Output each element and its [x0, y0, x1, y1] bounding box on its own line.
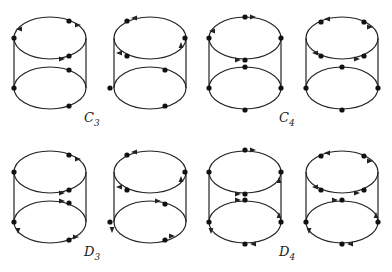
vertex-dot — [242, 191, 247, 196]
vertex-dot — [66, 67, 71, 72]
vertex-dot — [242, 197, 247, 202]
cylinder — [206, 147, 283, 246]
cylinder — [107, 150, 187, 243]
vertex-dot — [124, 53, 129, 58]
vertex-dot — [242, 241, 247, 246]
vertex-dot — [242, 57, 247, 62]
vertex-dot — [278, 35, 283, 40]
bottom-ellipse — [14, 67, 86, 109]
vertex-dot — [361, 53, 366, 58]
cylinder — [11, 151, 86, 243]
vertex-dot — [318, 19, 323, 24]
vertex-dot — [11, 169, 16, 174]
top-ellipse — [209, 17, 281, 59]
vertex-dot — [303, 85, 308, 90]
label-c4: C4 — [279, 110, 295, 128]
vertex-dot — [182, 35, 187, 40]
top-ellipse — [114, 151, 186, 193]
vertex-dot — [361, 19, 366, 24]
vertex-dot — [242, 147, 247, 152]
vertex-dot — [66, 53, 71, 58]
vertex-dot — [162, 237, 167, 242]
vertex-dot — [206, 85, 211, 90]
symmetry-diagram — [0, 0, 392, 272]
vertex-dot — [66, 237, 71, 242]
vertex-dot — [124, 152, 129, 157]
vertex-dot — [339, 241, 344, 246]
vertex-dot — [11, 35, 16, 40]
label-d3: D3 — [84, 244, 100, 262]
vertex-dot — [361, 187, 366, 192]
vertex-dot — [107, 219, 112, 224]
vertex-dot — [242, 14, 247, 19]
vertex-dot — [318, 153, 323, 158]
vertex-dot — [66, 187, 71, 192]
vertex-dot — [66, 200, 71, 205]
vertex-dot — [278, 219, 283, 224]
arrow-icon — [116, 185, 122, 190]
arrow-icon — [250, 15, 256, 20]
bottom-ellipse — [209, 67, 281, 109]
vertex-dot — [339, 107, 344, 112]
vertex-dot — [375, 85, 380, 90]
cylinder — [303, 17, 380, 113]
vertex-dot — [339, 64, 344, 69]
cylinder — [107, 16, 187, 109]
arrow-icon — [110, 227, 115, 233]
cylinder — [303, 151, 380, 247]
arrow-icon — [179, 42, 184, 48]
label-d4: D4 — [279, 244, 295, 262]
arrow-icon — [179, 176, 184, 182]
vertex-dot — [66, 103, 71, 108]
arrow-icon — [324, 151, 330, 156]
arrow-icon — [116, 51, 122, 56]
arrow-icon — [155, 199, 161, 204]
vertex-dot — [206, 169, 211, 174]
vertex-dot — [242, 107, 247, 112]
arrow-icon — [324, 17, 330, 22]
bottom-ellipse — [209, 201, 281, 243]
vertex-dot — [303, 219, 308, 224]
vertex-dot — [162, 103, 167, 108]
vertex-dot — [66, 18, 71, 23]
vertex-dot — [124, 18, 129, 23]
cylinder — [206, 14, 283, 112]
vertex-dot — [11, 219, 16, 224]
vertex-dot — [318, 53, 323, 58]
vertex-dot — [124, 187, 129, 192]
vertex-dot — [318, 187, 323, 192]
label-c3: C3 — [84, 110, 100, 128]
vertex-dot — [278, 169, 283, 174]
vertex-dot — [361, 153, 366, 158]
bottom-ellipse — [306, 67, 378, 109]
bottom-ellipse — [114, 67, 186, 109]
vertex-dot — [107, 85, 112, 90]
vertex-dot — [206, 219, 211, 224]
vertex-dot — [375, 219, 380, 224]
cylinder — [11, 17, 86, 109]
bottom-ellipse — [114, 201, 186, 243]
top-ellipse — [114, 17, 186, 59]
vertex-dot — [339, 197, 344, 202]
vertex-dot — [206, 35, 211, 40]
vertex-dot — [182, 169, 187, 174]
vertex-dot — [11, 85, 16, 90]
bottom-ellipse — [306, 201, 378, 243]
vertex-dot — [242, 64, 247, 69]
top-ellipse — [209, 151, 281, 193]
vertex-dot — [162, 201, 167, 206]
vertex-dot — [278, 85, 283, 90]
vertex-dot — [162, 67, 167, 72]
vertex-dot — [66, 152, 71, 157]
